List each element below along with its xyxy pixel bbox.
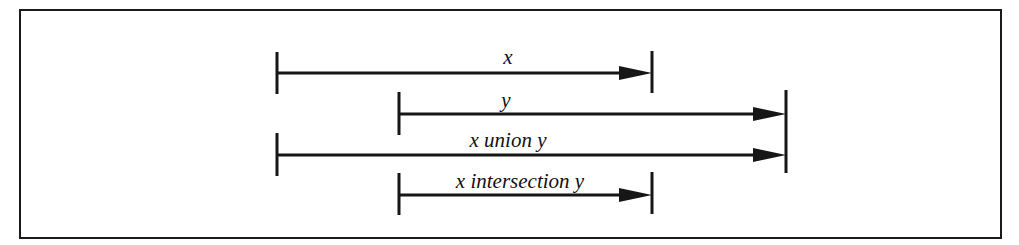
label-y: y <box>499 88 511 112</box>
arrowhead-icon <box>619 188 652 202</box>
arrowhead-icon <box>753 107 786 121</box>
label-x: x <box>502 45 513 69</box>
arrowhead-icon <box>753 148 786 162</box>
interval-y <box>399 107 786 121</box>
label-x-intersection-y: x intersection y <box>455 169 585 193</box>
label-x-union-y: x union y <box>469 128 548 152</box>
interval-diagram: x y x union y x intersection y <box>0 0 1019 245</box>
interval-x <box>277 66 652 80</box>
arrowhead-icon <box>619 66 652 80</box>
interval-labels: x y x union y x intersection y <box>455 45 585 193</box>
